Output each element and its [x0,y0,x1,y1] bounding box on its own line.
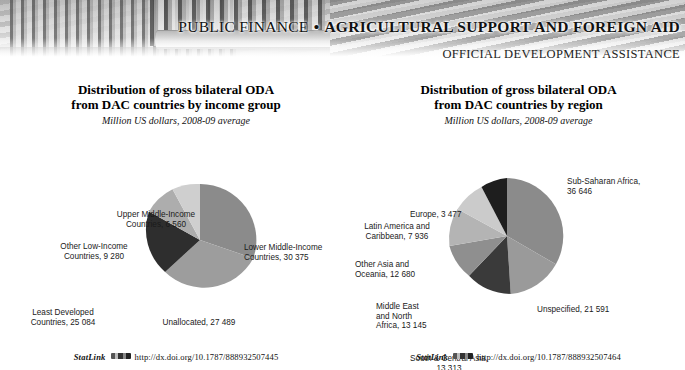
statlink-barcode-icon [453,353,473,359]
left-pie-label-upper-middle-income: Upper Middle-Income Countries, 6 560 [104,210,208,229]
left-chart-panel: Distribution of gross bilateral ODA from… [0,62,352,370]
left-statlink-url[interactable]: http://dx.doi.org/10.1787/888932507445 [135,352,279,362]
left-chart-subtitle: Million US dollars, 2008-09 average [0,115,352,126]
left-pie-label-least-developed: Least Developed Countries, 25 084 [14,308,112,327]
right-pie-label-latin-america: Latin America and Caribbean, 7 936 [344,222,450,241]
right-pie-label-europe: Europe, 3 477 [410,210,502,220]
left-chart-title: Distribution of gross bilateral ODA from… [0,83,352,112]
right-chart-subtitle: Million US dollars, 2008-09 average [352,115,685,126]
right-statlink: StatLinkhttp://dx.doi.org/10.1787/888932… [352,352,685,362]
right-pie-label-middle-east-north-africa: Middle East and North Africa, 13 145 [376,302,448,331]
right-chart-panel: Distribution of gross bilateral ODA from… [352,62,685,370]
banner-title: PUBLIC FINANCE•AGRICULTURAL SUPPORT AND … [0,18,680,36]
right-pie-label-sub-saharan-africa: Sub-Saharan Africa, 36 646 [567,177,673,196]
right-pie-svg [445,174,569,298]
banner-subtitle: OFFICIAL DEVELOPMENT ASSISTANCE [0,47,680,62]
statlink-barcode-icon [111,353,131,359]
page-header-banner: PUBLIC FINANCE•AGRICULTURAL SUPPORT AND … [0,0,685,62]
left-pie-chart [140,180,260,304]
right-chart-title: Distribution of gross bilateral ODA from… [352,83,685,112]
banner-title-topic: AGRICULTURAL SUPPORT AND FOREIGN AID [324,18,680,35]
left-pie-label-other-low-income: Other Low-Income Countries, 9 280 [44,242,144,261]
left-pie-label-lower-middle-income: Lower Middle-Income Countries, 30 375 [244,243,348,262]
banner-title-separator: • [309,18,325,35]
right-statlink-word: StatLink [416,352,448,362]
right-pie-label-other-asia-oceania: Other Asia and Oceania, 12 680 [355,260,451,279]
left-statlink: StatLinkhttp://dx.doi.org/10.1787/888932… [0,352,352,362]
left-pie-svg [140,180,260,300]
left-statlink-word: StatLink [74,352,106,362]
right-statlink-url[interactable]: http://dx.doi.org/10.1787/888932507464 [477,352,621,362]
left-pie-label-unallocated: Unallocated, 27 489 [140,318,258,328]
right-pie-label-unspecified: Unspecified, 21 591 [537,305,647,315]
banner-title-section: PUBLIC FINANCE [178,18,308,35]
right-pie-chart [445,174,569,302]
